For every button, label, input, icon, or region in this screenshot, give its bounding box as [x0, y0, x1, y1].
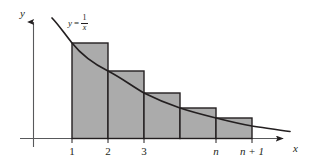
curve-label-equals: = — [74, 19, 79, 28]
tick-label-1: 1 — [69, 146, 75, 157]
figure-container: y = 1 x y x 1 2 3 n n + 1 — [0, 0, 314, 167]
rectangle-1 — [72, 43, 108, 139]
x-axis-label: x — [293, 143, 298, 154]
tick-label-n: n — [213, 146, 219, 157]
y-axis-label: y — [20, 8, 25, 19]
fraction-numerator: 1 — [82, 14, 88, 22]
tick-label-n-plus-1: n + 1 — [240, 146, 264, 157]
fraction-denominator: x — [82, 24, 88, 32]
rectangle-3 — [144, 93, 180, 139]
tick-label-2: 2 — [105, 146, 111, 157]
tick-label-3: 3 — [141, 146, 147, 157]
curve-equation-label: y = 1 x — [68, 14, 88, 32]
figure-graphic — [0, 0, 314, 167]
rectangle-n-plus-1 — [216, 118, 252, 139]
riemann-rectangles-group — [72, 43, 252, 139]
curve-label-lhs: y — [68, 19, 72, 28]
curve-label-fraction: 1 x — [81, 14, 88, 32]
